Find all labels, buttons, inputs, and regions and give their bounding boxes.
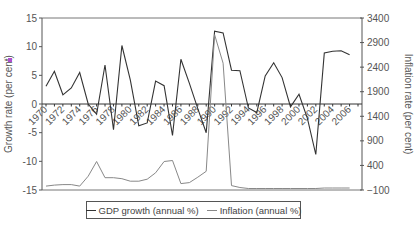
gdp-series-line: [46, 31, 350, 154]
left-axis: 151050-5-10-15: [23, 13, 42, 196]
left-axis-title: Growth rate (per cent): [3, 55, 14, 153]
legend-label-gdp: GDP growth (annual %): [99, 205, 199, 216]
legend-item-gdp: GDP growth (annual %): [86, 205, 199, 216]
right-tick-label: 900: [367, 135, 384, 146]
right-tick-label: 1400: [367, 111, 390, 122]
right-tick-label: 2900: [367, 37, 390, 48]
inflation-line-swatch-icon: [207, 210, 217, 211]
left-tick-label: 10: [26, 41, 38, 52]
right-tick-label: −100: [367, 185, 390, 196]
right-tick-label: 400: [367, 160, 384, 171]
marker-dot: [8, 58, 12, 62]
x-tick-label: 2006: [329, 103, 353, 127]
right-tick-label: 2400: [367, 62, 390, 73]
left-tick-label: -15: [23, 185, 38, 196]
x-axis: 1970197219741976197819801982198419861988…: [26, 103, 362, 127]
right-axis: 34002900240019001400900400−100: [360, 13, 390, 196]
legend-item-inflation: Inflation (annual %): [207, 205, 302, 216]
left-tick-label: 5: [31, 70, 37, 81]
left-tick-label: 15: [26, 13, 38, 24]
chart-svg: 151050-5-10-15 3400290024001900140090040…: [0, 0, 417, 231]
legend: GDP growth (annual %) Inflation (annual …: [86, 201, 301, 219]
gdp-line-swatch-icon: [86, 210, 96, 211]
right-tick-label: 3400: [367, 13, 390, 24]
right-axis-title: Inflation rate (per cent): [403, 54, 414, 155]
left-tick-label: -5: [28, 127, 37, 138]
legend-label-inflation: Inflation (annual %): [220, 205, 302, 216]
right-tick-label: 1900: [367, 86, 390, 97]
left-tick-label: -10: [23, 156, 38, 167]
